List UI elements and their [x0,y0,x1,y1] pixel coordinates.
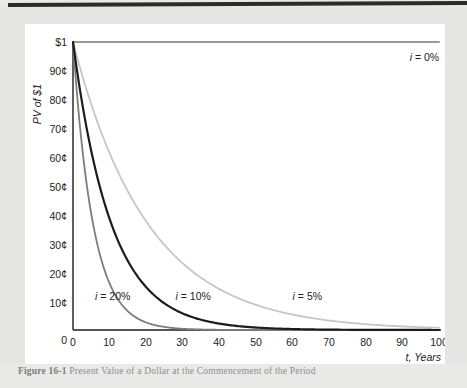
x-tick-label: 0 [70,336,76,348]
y-tick-label: 20¢ [49,268,67,280]
x-tick-label: 30 [176,336,188,348]
figure-caption: Figure 16-1 Present Value of a Dollar at… [18,366,458,376]
x-tick-label: 10 [103,336,115,348]
series-label-i-5-: i = 5% [293,290,323,302]
x-axis-title: t, Years [406,351,442,363]
x-tick-label: 60 [286,336,298,348]
y-tick-label: 90¢ [49,65,67,77]
x-tick-label: 20 [140,336,152,348]
y-tick-label: 70¢ [49,123,67,135]
y-tick-label: 40¢ [49,210,67,222]
series-label-i-20-: i = 20% [95,290,130,302]
x-tick-label: 50 [250,336,262,348]
present-value-chart: $1 90¢ 80¢ 70¢ 60¢ 50¢ 40¢ 30¢ 20¢ 10¢ 0… [25,24,445,364]
curve-i-20- [73,42,439,330]
y-tick-label: 80¢ [49,94,67,106]
figure-page: $1 90¢ 80¢ 70¢ 60¢ 50¢ 40¢ 30¢ 20¢ 10¢ 0… [0,0,467,388]
y-axis-title: PV of $1 [31,84,43,124]
chart-series-labels: i = 0%i = 5%i = 10%i = 20% [95,51,439,302]
y-tick-label: 60¢ [49,152,67,164]
x-tick-label: 70 [323,336,335,348]
y-axis-tick-labels: $1 90¢ 80¢ 70¢ 60¢ 50¢ 40¢ 30¢ 20¢ 10¢ 0 [49,36,67,346]
y-tick-label: 0 [61,334,67,346]
x-tick-label: 100 [430,336,445,348]
figure-caption-strip: Figure 16-1 Present Value of a Dollar at… [0,364,467,388]
y-tick-label: 30¢ [49,239,67,251]
curve-i-5- [73,42,439,328]
x-tick-label: 90 [396,336,408,348]
figure-caption-text: Present Value of a Dollar at the Commenc… [69,366,315,376]
curve-i-10- [73,42,439,330]
y-tick-label: $1 [55,36,67,48]
x-tick-label: 80 [360,336,372,348]
y-tick-label: 50¢ [49,181,67,193]
series-label-i-0-: i = 0% [410,51,440,63]
x-tick-label: 40 [213,336,225,348]
figure-caption-label: Figure 16-1 [18,366,67,376]
chart-axes [73,42,441,330]
chart-curves [73,42,439,330]
series-label-i-10-: i = 10% [176,290,211,302]
x-axis-tick-labels: 0 10 20 30 40 50 60 70 80 90 100 [70,336,445,348]
y-tick-label: 10¢ [49,297,67,309]
figure-card: $1 90¢ 80¢ 70¢ 60¢ 50¢ 40¢ 30¢ 20¢ 10¢ 0… [25,24,445,364]
